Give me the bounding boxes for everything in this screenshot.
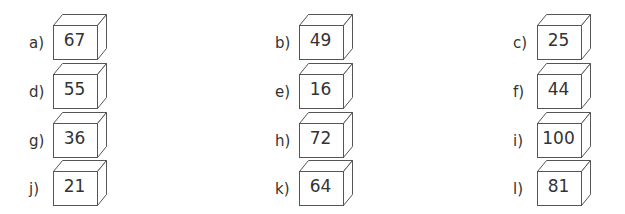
item-label: l) (513, 180, 523, 198)
cube-box: 81 (537, 160, 591, 206)
box-number: 72 (299, 123, 342, 154)
box-number: 49 (299, 25, 342, 56)
cube-box: 72 (299, 112, 353, 158)
number-box-item: j) 21 (29, 160, 139, 210)
item-label: c) (513, 34, 527, 52)
box-number: 25 (537, 25, 580, 56)
cube-box: 64 (299, 160, 353, 206)
box-number: 55 (53, 74, 96, 105)
box-number: 81 (537, 171, 580, 202)
cube-box: 16 (299, 63, 353, 109)
number-box-item: e) 16 (275, 63, 385, 113)
number-box-item: h) 72 (275, 112, 385, 162)
cube-box: 100 (537, 112, 591, 158)
box-number: 16 (299, 74, 342, 105)
item-label: e) (275, 83, 290, 101)
item-label: a) (29, 34, 44, 52)
number-box-item: c) 25 (513, 14, 623, 64)
item-label: k) (275, 180, 290, 198)
number-box-item: a) 67 (29, 14, 139, 64)
number-box-item: l) 81 (513, 160, 623, 210)
cube-box: 49 (299, 14, 353, 60)
box-number: 64 (299, 171, 342, 202)
number-box-item: f) 44 (513, 63, 623, 113)
item-label: i) (513, 132, 523, 150)
item-label: f) (513, 83, 524, 101)
cube-box: 55 (53, 63, 107, 109)
item-label: b) (275, 34, 290, 52)
number-box-item: k) 64 (275, 160, 385, 210)
box-number: 67 (53, 25, 96, 56)
item-label: j) (29, 180, 39, 198)
cube-box: 36 (53, 112, 107, 158)
box-number: 21 (53, 171, 96, 202)
box-number: 44 (537, 74, 580, 105)
box-number: 100 (537, 123, 580, 154)
cube-box: 44 (537, 63, 591, 109)
item-label: d) (29, 83, 44, 101)
cube-box: 21 (53, 160, 107, 206)
number-box-item: d) 55 (29, 63, 139, 113)
box-number: 36 (53, 123, 96, 154)
item-label: g) (29, 132, 44, 150)
number-box-item: b) 49 (275, 14, 385, 64)
number-box-item: i) 100 (513, 112, 623, 162)
number-box-item: g) 36 (29, 112, 139, 162)
item-label: h) (275, 132, 290, 150)
cube-box: 25 (537, 14, 591, 60)
cube-box: 67 (53, 14, 107, 60)
